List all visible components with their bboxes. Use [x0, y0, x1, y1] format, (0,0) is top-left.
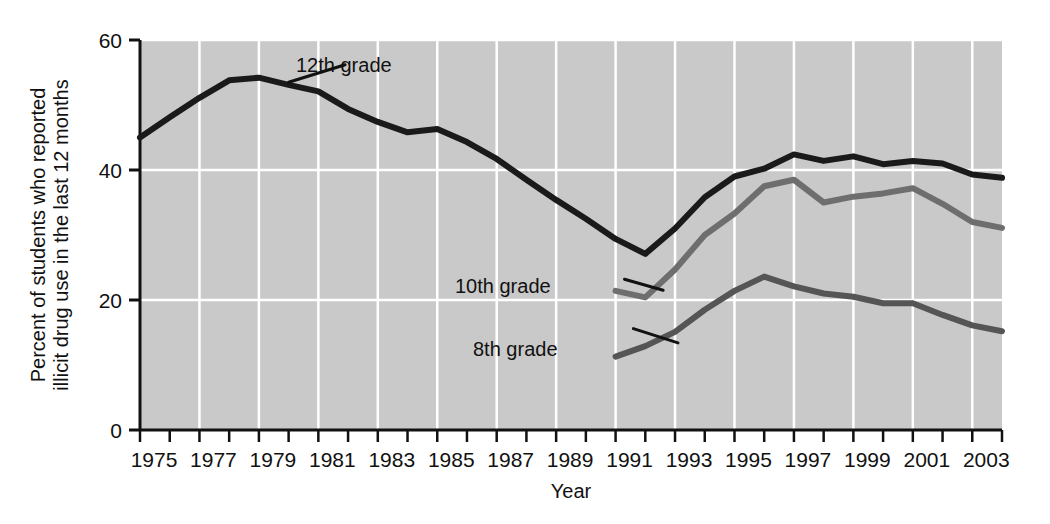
y-tick-label: 20 [99, 289, 122, 312]
y-axis-ticks [129, 40, 140, 430]
plot-background-group [140, 40, 1002, 430]
y-axis-title-line2: illicit drug use in the last 12 months [50, 79, 72, 390]
series-label-8th-grade: 8th grade [473, 338, 558, 360]
x-tick-label: 1995 [725, 448, 772, 471]
series-label-12th-grade: 12th grade [296, 54, 392, 76]
x-tick-label: 1985 [428, 448, 475, 471]
x-tick-label: 1981 [309, 448, 356, 471]
x-tick-label: 1989 [547, 448, 594, 471]
x-tick-label: 1979 [250, 448, 297, 471]
x-tick-label: 2003 [963, 448, 1010, 471]
line-chart: 0204060 19751977197919811983198519871989… [0, 0, 1050, 524]
chart-figure: 0204060 19751977197919811983198519871989… [0, 0, 1050, 524]
x-tick-label: 1987 [487, 448, 534, 471]
x-tick-label: 1983 [368, 448, 415, 471]
x-tick-label: 1991 [606, 448, 653, 471]
y-axis-title-line1: Percent of students who reported [27, 88, 49, 383]
plot-area-background [140, 40, 1002, 430]
x-tick-label: 1997 [785, 448, 832, 471]
x-axis-tick-labels: 1975197719791981198319851987198919911993… [131, 448, 1010, 471]
y-tick-label: 0 [110, 419, 122, 442]
y-tick-label: 40 [99, 159, 122, 182]
x-tick-label: 1993 [666, 448, 713, 471]
x-tick-label: 2001 [903, 448, 950, 471]
x-axis-ticks [140, 430, 1002, 442]
y-axis-tick-labels: 0204060 [99, 29, 122, 442]
y-tick-label: 60 [99, 29, 122, 52]
x-axis-title: Year [551, 480, 592, 502]
series-label-10th-grade: 10th grade [455, 275, 551, 297]
x-tick-label: 1999 [844, 448, 891, 471]
x-tick-label: 1977 [190, 448, 237, 471]
x-tick-label: 1975 [131, 448, 178, 471]
